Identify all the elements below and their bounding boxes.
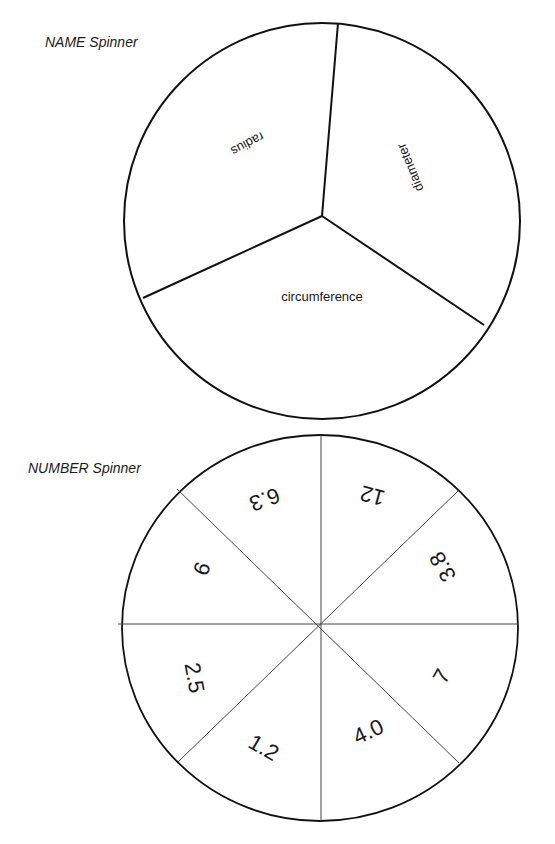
name-divider-right xyxy=(322,216,484,325)
number-section-label: 6.3 xyxy=(246,483,283,517)
number-section-label: 7 xyxy=(428,665,456,688)
name-divider-left xyxy=(143,216,322,298)
name-divider-top xyxy=(322,23,338,216)
number-section-label: 12 xyxy=(358,480,388,510)
name-spinner[interactable]: radius diameter circumference xyxy=(124,23,520,419)
name-section-label: radius xyxy=(228,129,267,159)
number-spinner[interactable]: 12 3.8 7 4.0 1.2 2.5 9 6.3 xyxy=(118,435,518,821)
number-section-label: 4.0 xyxy=(349,714,387,750)
spinners-diagram: radius diameter circumference 12 3.8 7 4… xyxy=(0,0,555,844)
name-spinner-circle xyxy=(124,23,520,419)
name-section-label: diameter xyxy=(393,141,426,194)
name-section-label: circumference xyxy=(281,289,363,304)
number-section-label: 2.5 xyxy=(180,660,210,694)
number-section-label: 9 xyxy=(188,559,216,579)
number-section-label: 1.2 xyxy=(244,729,283,766)
number-section-label: 3.8 xyxy=(424,547,461,586)
